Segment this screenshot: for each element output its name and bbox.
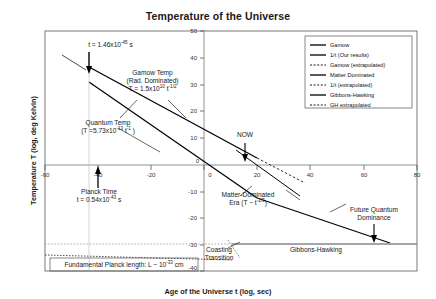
quantum-temp-line2: (T =5.73x10-13 t-1 ) [53, 127, 163, 135]
y-tick-5: 0 [196, 158, 200, 164]
x-tick-marks [45, 165, 417, 170]
future-quantum-line1: Future Quantum [332, 206, 416, 214]
y-tick-labels: 50 40 30 20 10 0 -10 -20 -30 -40 [188, 28, 199, 271]
x-tick-7: 80 [414, 172, 421, 178]
gamow-temp-coef: T = 1.5x10 [129, 85, 160, 92]
planck-time-coef: t = 0.54x10 [77, 196, 110, 203]
planck-time-annotation: Planck Time t = 0.54x10-43 s [55, 188, 143, 204]
y-tick-1: 40 [190, 55, 197, 61]
gamow-temp-line1: Gamow Temp [105, 69, 200, 77]
matter-dominated-annotation: Matter-Dominated Era (T ~ t-2/3) [200, 191, 296, 207]
y-tick-3: 20 [190, 108, 197, 114]
gamow-temp-line3: T = 1.5x1010 t-1/2 [105, 85, 200, 93]
legend-label-4: 1/t (extrapolated) [330, 82, 372, 88]
start-time-unit: s [128, 41, 133, 48]
future-quantum-annotation: Future Quantum Dominance [332, 206, 416, 222]
gamow-temp-exp2: -1/2 [169, 84, 177, 89]
legend-label-6: GH extrapolated [330, 102, 371, 108]
start-time-text: t = 1.46x10 [88, 41, 121, 48]
start-time-annotation: t = 1.46x10-45 s [58, 41, 163, 49]
planck-length-text: Fundamental Planck length: L ~ 10 [64, 261, 166, 268]
legend-label-0: Gamow [330, 42, 350, 48]
matter-dominated-era: Era (T ~ t [229, 199, 257, 206]
future-quantum-line2: Dominance [332, 214, 416, 222]
gibbons-hawking-annotation: Gibbons-Hawking [278, 246, 354, 254]
planck-length-unit: cm [173, 261, 184, 268]
planck-time-line1: Planck Time [55, 188, 143, 196]
matter-dominated-line1: Matter-Dominated [200, 191, 296, 199]
temperature-of-the-universe-chart: Temperature of the Universe Temperature … [0, 0, 436, 299]
matter-dominated-close: ) [265, 199, 267, 206]
y-tick-7: -20 [188, 215, 197, 221]
start-time-arrow [62, 52, 92, 74]
y-tick-marks [200, 31, 204, 271]
future-quantum-arrow [371, 224, 377, 243]
legend-label-1: 1/t (Our results) [330, 52, 369, 58]
legend: Gamow 1/t (Our results) Gamow (extrapola… [305, 36, 412, 108]
quantum-temp-close: ) [131, 127, 135, 134]
coasting-line1: Coasting [196, 246, 242, 254]
legend-label-2: Gamow (extrapolated) [330, 62, 385, 68]
matter-dominated-line2: Era (T ~ t-2/3) [200, 199, 296, 207]
legend-label-5: Gibbons-Hawking [330, 92, 374, 98]
x-tick-2: -20 [147, 172, 156, 178]
planck-time-line2: t = 0.54x10-43 s [55, 196, 143, 204]
y-tick-6: -10 [188, 189, 197, 195]
y-tick-0: 50 [190, 28, 197, 34]
planck-length-exp: -33 [166, 260, 173, 265]
x-tick-4: 20 [254, 172, 261, 178]
planck-length-annotation: Fundamental Planck length: L ~ 10-33 cm [52, 261, 196, 269]
quantum-temp-annotation: Quantum Temp (T =5.73x10-13 t-1 ) [53, 119, 163, 135]
y-tick-4: 10 [190, 135, 197, 141]
x-tick-3: 0 [208, 172, 212, 178]
matter-dominated-exp: -2/3 [257, 198, 265, 203]
x-tick-6: 60 [361, 172, 368, 178]
legend-label-3: Matter Dominated [330, 72, 374, 78]
start-time-exponent: -45 [121, 40, 128, 45]
quantum-temp-coef: (T =5.73x10 [81, 127, 116, 134]
planck-time-unit: s [116, 196, 121, 203]
coasting-transition-annotation: Coasting Transition [196, 246, 242, 262]
quantum-temp-line1: Quantum Temp [53, 119, 163, 127]
x-tick-0: -60 [41, 172, 50, 178]
gamow-temp-annotation: Gamow Temp (Rad. Dominated) T = 1.5x1010… [105, 69, 200, 94]
coasting-line2: Transition [196, 254, 242, 262]
now-annotation: NOW [228, 131, 262, 139]
x-tick-5: 40 [307, 172, 314, 178]
series-one-over-t [89, 82, 257, 198]
